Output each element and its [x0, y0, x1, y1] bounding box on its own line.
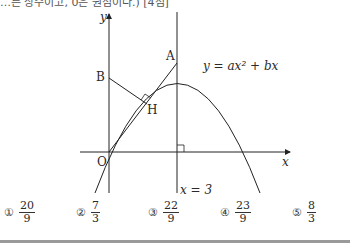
- choice-marker: ④: [220, 206, 230, 219]
- fraction: 73: [91, 200, 100, 225]
- choice-marker: ①: [4, 206, 14, 219]
- fraction: 209: [19, 200, 35, 225]
- point-b-label: B: [96, 71, 105, 83]
- denominator: 9: [24, 213, 31, 225]
- fraction: 83: [307, 200, 316, 225]
- point-h-label: H: [147, 104, 157, 116]
- choice-2[interactable]: ② 73: [76, 200, 100, 225]
- point-a-label: A: [166, 50, 175, 62]
- denominator: 9: [168, 213, 175, 225]
- fraction: 229: [163, 200, 179, 225]
- choice-marker: ②: [76, 206, 86, 219]
- answer-choices: ① 209 ② 73 ③ 229 ④ 239 ⑤ 83: [0, 200, 350, 230]
- fraction: 239: [235, 200, 251, 225]
- choice-marker: ⑤: [292, 206, 302, 219]
- choice-marker: ③: [148, 206, 158, 219]
- curve-equation-label: y = ax² + bx: [203, 60, 278, 72]
- denominator: 3: [308, 213, 315, 225]
- line-equation-label: x = 3: [180, 184, 212, 196]
- y-axis-label: y: [100, 11, 107, 23]
- denominator: 3: [92, 213, 99, 225]
- denominator: 9: [240, 213, 247, 225]
- segment-oa: [109, 63, 177, 152]
- right-angle-marker-axis: [177, 145, 184, 152]
- origin-label: O: [97, 156, 107, 168]
- x-axis-label: x: [282, 156, 289, 168]
- choice-3[interactable]: ③ 229: [148, 200, 179, 225]
- choice-4[interactable]: ④ 239: [220, 200, 251, 225]
- choice-1[interactable]: ① 209: [4, 200, 35, 225]
- choice-5[interactable]: ⑤ 83: [292, 200, 316, 225]
